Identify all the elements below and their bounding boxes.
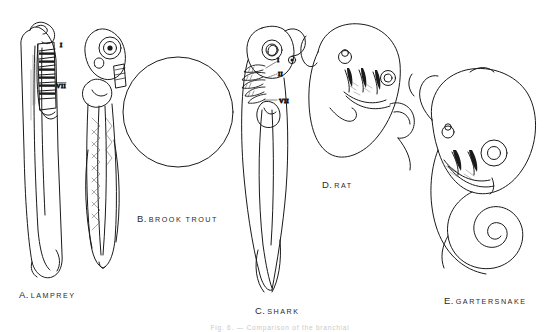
figure-label-rat: D.RAT — [322, 174, 353, 192]
lamprey-annotation-VII: VII — [56, 82, 66, 89]
rat-embryo-drawing — [301, 24, 415, 170]
embryo-illustrations: I VII — [0, 0, 560, 332]
lamprey-annotation-I: I — [60, 41, 62, 48]
shark-annotation-VII: VII — [279, 97, 289, 104]
trout-yolk-sac — [123, 57, 233, 167]
label-letter-b: B. — [137, 213, 147, 224]
shark-annotation-I: I — [277, 56, 279, 63]
figure-label-lamprey: A.LAMPREY — [19, 284, 76, 302]
label-letter-e: E. — [444, 295, 454, 306]
figure-label-shark: C.SHARK — [255, 300, 300, 318]
brook-trout-embryo-drawing — [82, 29, 233, 268]
label-letter-d: D. — [322, 179, 332, 190]
label-name-shark: SHARK — [267, 307, 299, 316]
plate-caption: Fig. 6. — Comparison of the branchial — [0, 324, 560, 331]
gartersnake-embryo-drawing — [409, 68, 536, 275]
label-name-gartersnake: GARTERSNAKE — [456, 297, 527, 306]
label-letter-a: A. — [19, 289, 29, 300]
label-name-brook-trout: BROOK TROUT — [149, 215, 218, 224]
label-name-lamprey: LAMPREY — [31, 291, 76, 300]
shark-embryo-drawing — [242, 26, 306, 292]
figure-plate: I VII — [0, 0, 560, 332]
lamprey-embryo-drawing — [21, 22, 62, 278]
label-name-rat: RAT — [334, 181, 352, 190]
label-letter-c: C. — [255, 305, 265, 316]
shark-annotation-II: II — [278, 70, 283, 77]
figure-label-brook-trout: B.BROOK TROUT — [137, 208, 218, 226]
figure-label-gartersnake: E.GARTERSNAKE — [444, 290, 526, 308]
